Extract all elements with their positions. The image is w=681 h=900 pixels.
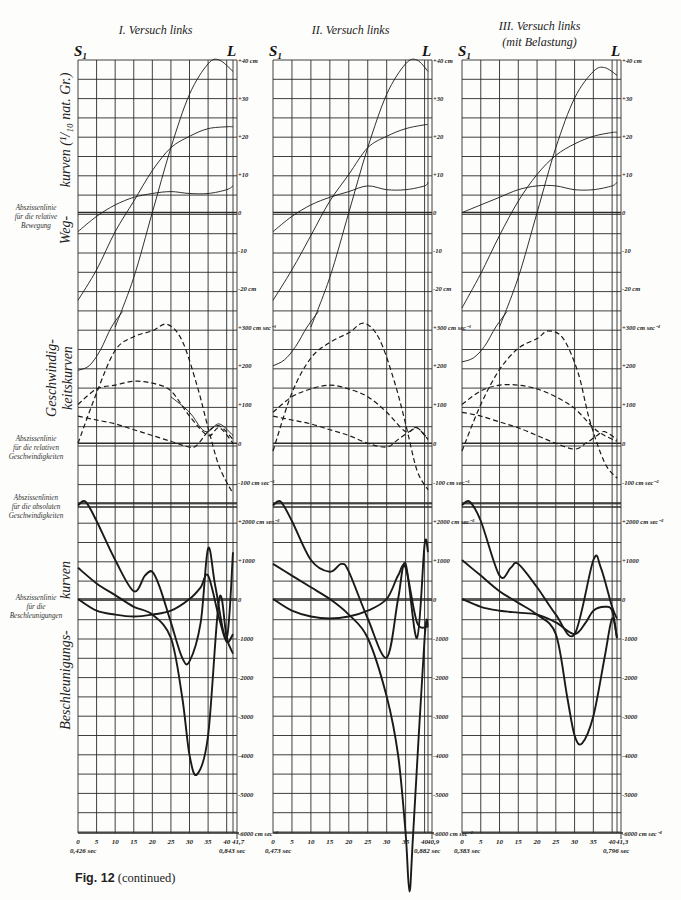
- y-tick-label: -4000: [433, 752, 449, 759]
- x-tick-label: 10: [307, 838, 315, 846]
- y-tick-label: +1000: [433, 557, 450, 564]
- x-tick-label: 15: [326, 838, 334, 846]
- caption-note: (continued): [118, 871, 176, 885]
- y-tick-label: 0: [622, 596, 626, 603]
- panel-title: I. Versuch links: [118, 23, 193, 37]
- sidenote-line: Abszissenlinie: [15, 594, 58, 602]
- x-tick-label: 0: [460, 838, 464, 846]
- sidenote-line: für die: [27, 603, 47, 611]
- y-tick-label: 0: [433, 209, 437, 216]
- x-tick-label: 30: [570, 838, 579, 846]
- y-tick-label: +40 cm: [433, 57, 453, 64]
- grid: [273, 60, 434, 839]
- x-end-time: 0,796 sec: [603, 847, 629, 855]
- panel-title: II. Versuch links: [311, 23, 390, 37]
- y-tick-label: +200: [433, 362, 447, 369]
- side-label-weg: Weg-: [58, 216, 73, 245]
- figure-caption: Fig. 12 (continued): [75, 871, 175, 886]
- side-label-keitskurven: keitskurven: [60, 346, 75, 410]
- x-tick-label: 25: [551, 838, 560, 846]
- x-tick-label: 20: [344, 838, 353, 846]
- x-end-time: 0,843 sec: [219, 847, 245, 855]
- chart-panel-1: I. Versuch linksS₁L+40 cm+30+20+100-10-2…: [70, 23, 280, 855]
- x-tick-label: 10: [496, 838, 504, 846]
- x-tick-label: 15: [130, 838, 138, 846]
- y-tick-label: -10: [433, 247, 442, 254]
- y-tick-label: -3000: [622, 713, 638, 720]
- sidenote-line: Geschwindigkeiten: [9, 453, 64, 461]
- y-tick-label: -2000: [622, 674, 638, 681]
- side-labels: Weg-kurven (¹/₁₀ nat. Gr.)Abszissenlinie…: [9, 72, 75, 729]
- y-tick-label: +100: [433, 401, 447, 408]
- x-tick-label: 5: [290, 838, 294, 846]
- y-tick-label: 0: [433, 440, 437, 447]
- sidenote-line: Beschleunigungen: [10, 612, 63, 620]
- figure-canvas: Weg-kurven (¹/₁₀ nat. Gr.)Abszissenlinie…: [0, 0, 681, 900]
- y-tick-label: -3000: [238, 713, 254, 720]
- side-note-relative-velocity: Abszissenliniefür die relativenGeschwind…: [9, 435, 64, 461]
- side-label-geschwindig: Geschwindig-: [44, 339, 59, 417]
- curve-geschwindigkeitskurven-dashed-mid: [78, 381, 233, 443]
- y-tick-label: 0: [622, 209, 626, 216]
- sidenote-line: Abszissenlinie: [15, 435, 58, 443]
- x-tick-label: 40: [608, 838, 617, 846]
- curve-beschleunigungskurven-relative-accel-2: [78, 574, 233, 642]
- panel-subtitle: (mit Belastung): [502, 35, 576, 49]
- x-tick-label: 5: [479, 838, 483, 846]
- y-tick-label: +40 cm: [622, 57, 642, 64]
- x-tick-label: 25: [166, 838, 175, 846]
- curve-geschwindigkeitskurven-abs-continuation: [462, 312, 507, 362]
- y-tick-label: -20 cm: [622, 285, 640, 292]
- y-tick-label: +30: [433, 95, 444, 102]
- x-tick-label: 20: [533, 838, 542, 846]
- curve-wegkurven-steep: [500, 67, 618, 327]
- sidenote-line: Bewegung: [21, 222, 51, 230]
- y-tick-label: -10: [238, 247, 247, 254]
- y-tick-label: -2000: [433, 674, 449, 681]
- x-tick-label: 41,7: [231, 838, 245, 846]
- x-tick-label: 41,3: [615, 838, 629, 846]
- y-tick-label: +1000: [238, 557, 255, 564]
- y-tick-label: +200: [238, 362, 252, 369]
- grid: [78, 60, 239, 839]
- sidenote-line: Abszissenlinie: [15, 204, 58, 212]
- curve-wegkurven-relative: [78, 186, 233, 232]
- sidenote-line: für die relativen: [13, 444, 59, 452]
- y-tick-label: +2000 cm sec⁻²: [622, 518, 664, 525]
- x-start-time: 0,473 sec: [265, 847, 291, 855]
- y-tick-label: +20: [238, 133, 249, 140]
- y-tick-label: -4000: [622, 752, 638, 759]
- y-tick-label: -3000: [433, 713, 449, 720]
- y-tick-label: -20 cm: [433, 285, 451, 292]
- y-tick-label: +100: [622, 401, 636, 408]
- y-tick-label: +10: [238, 171, 249, 178]
- sidenote-line: Geschwindigkeiten: [9, 512, 64, 520]
- y-tick-label: +10: [433, 171, 444, 178]
- curve-wegkurven-steep: [311, 59, 428, 327]
- x-tick-label: 25: [363, 838, 372, 846]
- curve-geschwindigkeitskurven-dashed-mid: [273, 385, 428, 439]
- corner-label-left: S₁: [269, 43, 283, 59]
- y-tick-label: 0: [238, 440, 242, 447]
- y-tick-label: 0: [433, 596, 437, 603]
- chart-panel-3: III. Versuch links(mit Belastung)S₁L+40 …: [454, 19, 664, 855]
- x-tick-label: 30: [382, 838, 391, 846]
- y-tick-label: +1000: [622, 557, 639, 564]
- sidenote-line: für die relative: [15, 213, 58, 221]
- corner-label-right: L: [226, 43, 236, 59]
- side-note-acceleration: Abszissenliniefür dieBeschleunigungen: [10, 594, 63, 620]
- x-tick-label: 10: [112, 838, 120, 846]
- x-tick-label: 0: [271, 838, 275, 846]
- y-tick-label: -2000: [238, 674, 254, 681]
- curve-geschwindigkeitskurven-abs-continuation: [78, 312, 123, 371]
- y-tick-label: -100 cm sec⁻¹: [238, 479, 274, 486]
- y-tick-label: -10: [622, 247, 631, 254]
- side-label-wegkurven: kurven (¹/₁₀ nat. Gr.): [58, 72, 74, 187]
- x-tick-label: 20: [148, 838, 157, 846]
- y-tick-label: +20: [622, 133, 633, 140]
- y-tick-label: +300 cm sec⁻¹: [433, 324, 471, 331]
- x-start-time: 0,426 sec: [70, 847, 96, 855]
- y-tick-label: -1000: [433, 635, 449, 642]
- x-tick-label: 30: [185, 838, 194, 846]
- x-tick-label: 15: [515, 838, 523, 846]
